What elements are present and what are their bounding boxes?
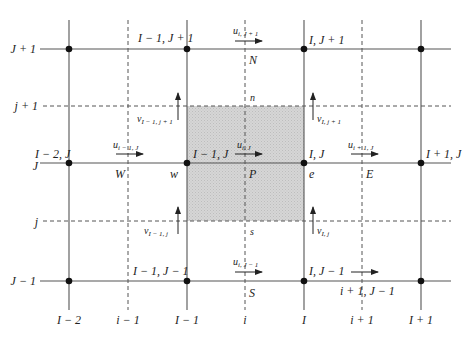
node-label-I-2-J: I − 2, J: [34, 147, 71, 161]
velocity-label-u-i-1-J: ui − 1, J: [113, 139, 139, 152]
node-label-I-1-J: I − 1, J: [192, 147, 229, 161]
col-label-I: I: [301, 313, 307, 327]
node-label-I+1-J: I + 1, J: [425, 147, 462, 161]
point-label-e: e: [309, 167, 315, 181]
point-label-E: E: [365, 167, 374, 181]
node-label-I-1-J+1: I − 1, J + 1: [137, 31, 194, 45]
row-label-j+1: j + 1: [13, 99, 38, 113]
node-label-I-J-1: I, J − 1: [308, 264, 344, 278]
row-label-J-1: J − 1: [11, 274, 36, 288]
velocity-label-v-I-1-j+1: vI − 1, j + 1: [137, 113, 173, 126]
row-label-j: j: [33, 215, 39, 229]
velocity-label-v-I-j: vI, j: [317, 225, 329, 238]
row-label-J: J: [33, 159, 39, 173]
point-label-S: S: [249, 286, 255, 300]
col-label-i: i: [243, 313, 246, 327]
point-label-N: N: [248, 53, 258, 67]
node-label-i+1-J-1: i + 1, J − 1: [340, 284, 395, 298]
col-label-I+1: I + 1: [408, 313, 433, 327]
velocity-label-u-i-J+1: ui, J + 1: [233, 25, 258, 38]
point-label-s: s: [250, 226, 254, 237]
velocity-label-u-i-J-1: ui, J − 1: [233, 256, 258, 269]
velocity-label-v-I-1-j: vI − 1, j: [144, 225, 168, 238]
col-label-I-2: I − 2: [56, 313, 81, 327]
node-label-I-J: I, J: [308, 147, 325, 161]
velocity-label-v-I-j+1: vI, j + 1: [317, 113, 341, 126]
node-label-I-J+1: I, J + 1: [308, 33, 344, 47]
staggered-grid-diagram: J + 1 j + 1 J j J − 1 I − 2 i − 1 I − 1 …: [0, 0, 476, 341]
col-label-i-1: i − 1: [116, 313, 139, 327]
point-label-n: n: [250, 92, 255, 103]
col-label-i+1: i + 1: [350, 313, 373, 327]
point-label-w: w: [170, 167, 178, 181]
point-label-W: W: [115, 167, 126, 181]
node-label-I-1-J-1: I − 1, J − 1: [132, 264, 189, 278]
col-label-I-1: I − 1: [174, 313, 199, 327]
velocity-label-u-i+1-J: ui + 1, J: [348, 139, 374, 152]
point-label-P: P: [248, 167, 257, 181]
row-label-J+1: J + 1: [11, 42, 36, 56]
